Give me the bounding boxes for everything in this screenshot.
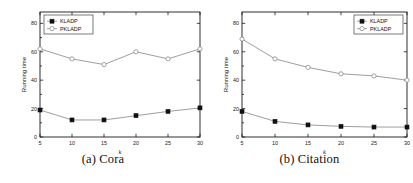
- data-point-pkladp: [166, 57, 170, 61]
- panel-cora: 51015202530020406080kRunning timeKLADPPK…: [0, 0, 206, 183]
- x-tick-label: 15: [101, 140, 107, 146]
- caption-index-a: (a): [82, 152, 96, 166]
- legend-label-pkladp: PKLADP: [370, 26, 392, 32]
- x-tick-label: 25: [371, 140, 377, 146]
- data-point-pkladp: [70, 57, 74, 61]
- panel-citation: 51015202530020406080kRunning timeKLADPPK…: [206, 0, 413, 183]
- x-tick-label: 15: [305, 140, 311, 146]
- series-line-pkladp: [40, 49, 200, 65]
- y-tick-label: 80: [233, 20, 239, 26]
- data-point-pkladp: [134, 50, 138, 54]
- caption-cora: (a)Cora: [0, 152, 206, 167]
- y-tick-label: 20: [31, 106, 37, 112]
- legend-citation: KLADPPKLADP: [354, 15, 403, 34]
- caption-citation: (b)Citation: [206, 152, 413, 167]
- plot-area-cora: 51015202530020406080kRunning timeKLADPPK…: [0, 0, 206, 155]
- caption-label-a: Cora: [99, 152, 124, 166]
- legend-label-pkladp: PKLADP: [60, 26, 82, 32]
- data-point-pkladp: [198, 47, 202, 51]
- chart-svg-cora: 51015202530020406080kRunning timeKLADPPK…: [0, 0, 206, 155]
- x-tick-label: 20: [133, 140, 139, 146]
- data-point-pkladp: [405, 78, 409, 82]
- x-tick-label: 10: [272, 140, 278, 146]
- series-line-pkladp: [242, 39, 407, 80]
- x-tick-label: 5: [241, 140, 244, 146]
- y-tick-label: 80: [31, 20, 37, 26]
- x-tick-label: 25: [165, 140, 171, 146]
- data-point-pkladp: [372, 74, 376, 78]
- y-tick-label: 0: [236, 134, 239, 140]
- y-tick-label: 60: [233, 49, 239, 55]
- x-tick-label: 30: [197, 140, 203, 146]
- legend-marker-pkladp: [360, 27, 364, 31]
- legend-cora: KLADPPKLADP: [44, 15, 93, 34]
- y-axis-title: Running time: [223, 56, 229, 92]
- data-point-kladp: [273, 119, 277, 123]
- y-tick-label: 0: [34, 134, 37, 140]
- data-point-kladp: [198, 106, 202, 110]
- y-axis-title: Running time: [21, 56, 27, 92]
- legend-marker-kladp: [360, 19, 364, 23]
- data-point-kladp: [306, 123, 310, 127]
- x-tick-label: 10: [69, 140, 75, 146]
- y-tick-label: 60: [31, 49, 37, 55]
- series-line-kladp: [40, 108, 200, 120]
- legend-marker-kladp: [50, 19, 54, 23]
- data-point-kladp: [372, 125, 376, 129]
- data-point-kladp: [70, 118, 74, 122]
- data-point-pkladp: [339, 72, 343, 76]
- x-tick-label: 5: [39, 140, 42, 146]
- data-point-pkladp: [102, 62, 106, 66]
- data-point-pkladp: [273, 57, 277, 61]
- x-tick-label: 20: [338, 140, 344, 146]
- figure-two-panel-line-charts: 51015202530020406080kRunning timeKLADPPK…: [0, 0, 413, 183]
- caption-label-b: Citation: [298, 152, 340, 166]
- caption-index-b: (b): [279, 152, 294, 166]
- data-point-kladp: [134, 114, 138, 118]
- data-point-pkladp: [240, 37, 244, 41]
- x-tick-label: 30: [404, 140, 410, 146]
- data-point-pkladp: [306, 65, 310, 69]
- data-point-kladp: [405, 125, 409, 129]
- data-point-pkladp: [38, 47, 42, 51]
- series-line-kladp: [242, 111, 407, 127]
- data-point-kladp: [166, 109, 170, 113]
- data-point-kladp: [102, 118, 106, 122]
- plot-area-citation: 51015202530020406080kRunning timeKLADPPK…: [206, 0, 413, 155]
- legend-label-kladp: KLADP: [60, 18, 78, 24]
- y-tick-label: 40: [233, 77, 239, 83]
- data-point-kladp: [240, 109, 244, 113]
- y-tick-label: 20: [233, 106, 239, 112]
- data-point-kladp: [38, 108, 42, 112]
- y-tick-label: 40: [31, 77, 37, 83]
- legend-marker-pkladp: [50, 27, 54, 31]
- legend-label-kladp: KLADP: [370, 18, 388, 24]
- chart-svg-citation: 51015202530020406080kRunning timeKLADPPK…: [206, 0, 413, 155]
- data-point-kladp: [339, 124, 343, 128]
